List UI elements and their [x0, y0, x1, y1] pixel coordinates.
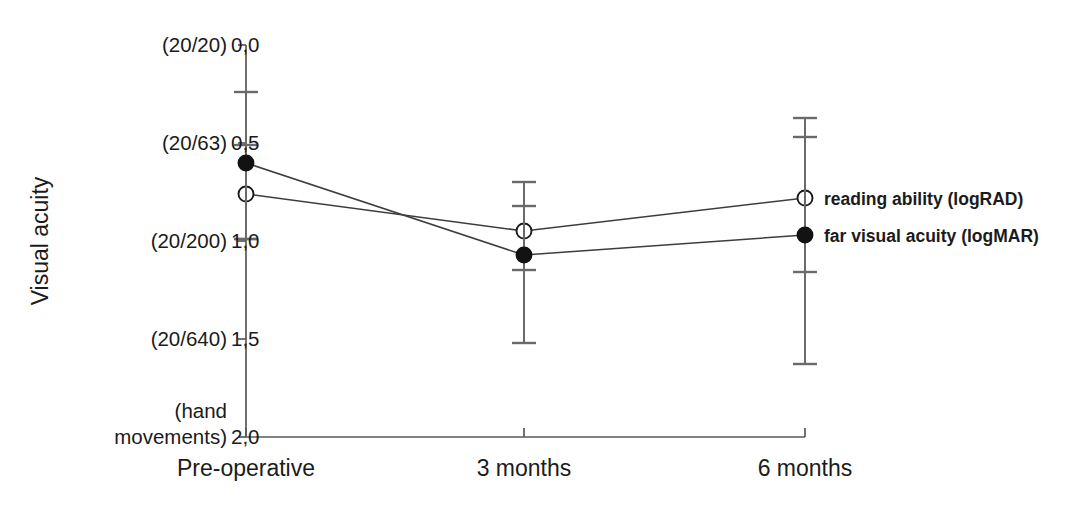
y-tick-label-2-value: 1,0	[231, 229, 260, 252]
visual-acuity-chart-figure: (20/20) 0,0 (20/63) 0,5 (20/200) 1,0 (20…	[0, 0, 1088, 510]
error-bar-logmar-3-months	[512, 206, 536, 343]
y-tick-label-0-value: 0,0	[231, 33, 260, 56]
legend-item-label-reading-ability: reading ability (logRAD)	[824, 189, 1023, 209]
y-tick-label-2-snellen: (20/200)	[151, 229, 227, 252]
y-tick-label-0-snellen: (20/20)	[162, 33, 227, 56]
marker-logmar-3-months	[516, 247, 532, 263]
x-axis-tick-labels: Pre-operative 3 months 6 months	[177, 455, 852, 481]
y-axis-title: Visual acuity	[27, 176, 53, 305]
x-tick-label-preoperative: Pre-operative	[177, 455, 315, 481]
y-tick-label-3-value: 1,5	[231, 327, 260, 350]
y-tick-label-3-snellen: (20/640)	[151, 327, 227, 350]
y-tick-label-1-value: 0,5	[231, 131, 260, 154]
y-tick-label-4-snellen-line2: movements)	[114, 425, 227, 448]
y-tick-label-4-snellen-line1: (hand	[175, 399, 227, 422]
x-axis-ticks	[246, 428, 805, 437]
legend-item-label-far-visual-acuity: far visual acuity (logMAR)	[824, 226, 1039, 246]
x-tick-label-3-months: 3 months	[477, 455, 572, 481]
series-line-logmar	[246, 163, 805, 255]
y-tick-label-1-snellen: (20/63)	[162, 131, 227, 154]
y-tick-label-4-value: 2,0	[231, 425, 260, 448]
marker-logmar-preoperative	[238, 155, 254, 171]
chart-canvas: (20/20) 0,0 (20/63) 0,5 (20/200) 1,0 (20…	[0, 0, 1088, 510]
y-axis-tick-labels: (20/20) 0,0 (20/63) 0,5 (20/200) 1,0 (20…	[114, 33, 259, 448]
legend: reading ability (logRAD) far visual acui…	[824, 189, 1039, 246]
x-tick-label-6-months: 6 months	[758, 455, 853, 481]
marker-logmar-6-months	[797, 227, 813, 243]
